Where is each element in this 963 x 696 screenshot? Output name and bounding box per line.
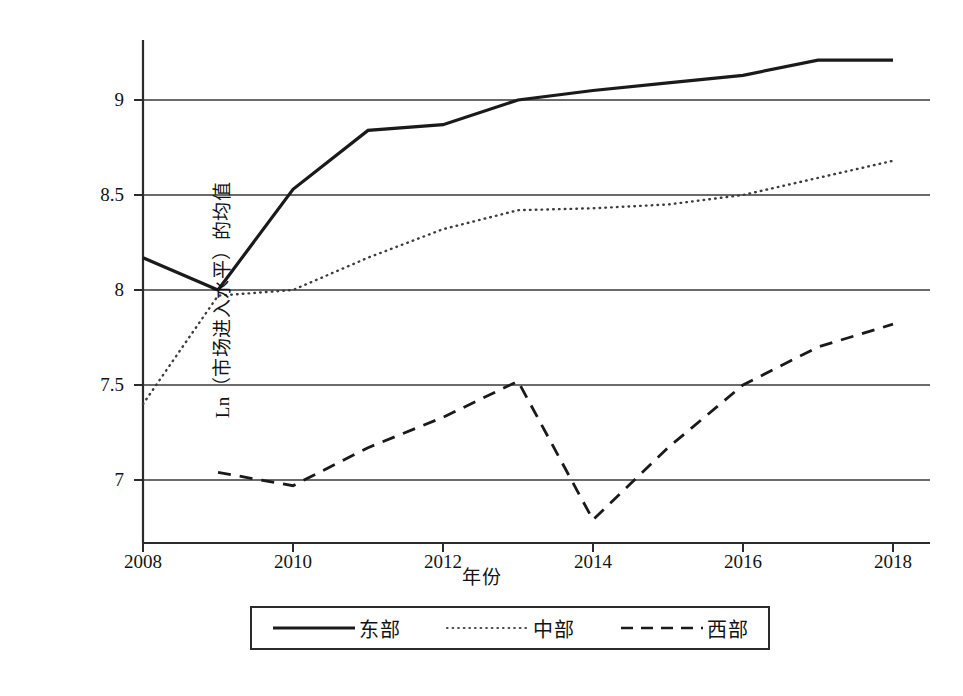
y-tick-label: 8.5: [78, 184, 124, 206]
series-line-西部: [218, 324, 893, 520]
legend-label: 东部: [359, 614, 401, 643]
legend-label: 中部: [533, 614, 575, 643]
y-tick-label: 7.5: [78, 374, 124, 396]
series-line-东部: [143, 60, 893, 290]
y-tick-label: 8: [78, 279, 124, 301]
line-chart-figure: 77.588.59 200820102012201420162018 Ln（市场…: [0, 0, 963, 696]
legend-item[interactable]: 东部: [271, 614, 401, 643]
y-tick-label: 9: [78, 89, 124, 111]
y-axis-title: Ln（市场进入水平）的均值: [207, 90, 234, 510]
series-line-中部: [143, 161, 893, 404]
chart-page: 77.588.59 200820102012201420162018 Ln（市场…: [0, 0, 963, 696]
plot-area: [0, 0, 963, 696]
legend-swatch-dashed: [619, 621, 705, 635]
legend-swatch-dotted: [445, 621, 531, 635]
x-axis-title: 年份: [0, 562, 963, 589]
y-tick-label: 7: [78, 469, 124, 491]
gridlines: [143, 100, 930, 480]
legend-item[interactable]: 中部: [445, 614, 575, 643]
y-axis-ticks: [134, 100, 143, 480]
legend-swatch-solid: [271, 621, 357, 635]
chart-legend: 东部中部西部: [250, 606, 770, 650]
legend-item[interactable]: 西部: [619, 614, 749, 643]
legend-label: 西部: [707, 614, 749, 643]
